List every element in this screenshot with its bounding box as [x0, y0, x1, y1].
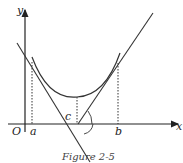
figure-caption: Figure 2-5: [62, 152, 115, 162]
x-axis-label: x: [176, 121, 182, 132]
diagram-canvas: [0, 0, 183, 163]
point-a-label: a: [30, 126, 37, 137]
convex-curve: [32, 53, 120, 97]
tangent-line-right: [78, 13, 153, 124]
secant-line-left: [17, 43, 90, 162]
origin-label: O: [12, 126, 21, 137]
angle-arc-lower: [84, 124, 93, 134]
angle-arc-upper: [88, 111, 92, 124]
point-b-label: b: [115, 126, 122, 137]
y-axis-label: y: [17, 5, 23, 16]
point-c-label: c: [65, 111, 71, 122]
